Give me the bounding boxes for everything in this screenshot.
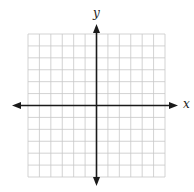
x-axis-arrow-right-icon [169,102,178,109]
y-axis-label: y [93,7,100,19]
y-axis-arrow-up-icon [93,24,100,33]
x-axis-arrow-left-icon [12,102,21,109]
y-axis-arrow-down-icon [93,177,100,186]
axes [12,24,178,186]
coordinate-plane [0,0,194,192]
x-axis-label: x [183,98,190,110]
